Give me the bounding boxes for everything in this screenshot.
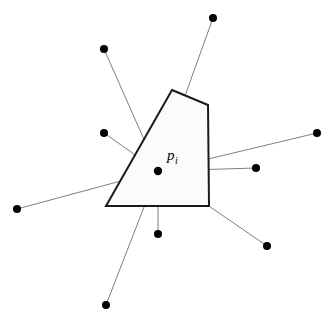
outer-point-n2	[100, 45, 108, 53]
polygon-cell	[106, 90, 209, 206]
outer-point-n9	[102, 301, 110, 309]
outer-point-n7	[154, 230, 162, 238]
outer-point-n3	[100, 129, 108, 137]
outer-point-n1	[209, 14, 217, 22]
outer-point-n8	[263, 242, 271, 250]
center-point-dot	[154, 167, 162, 175]
figure-canvas: pi	[0, 0, 332, 320]
center-label-subscript: i	[175, 155, 178, 166]
center-label-base: p	[166, 147, 175, 163]
diagram-svg: pi	[0, 0, 332, 320]
outer-point-n5	[252, 164, 260, 172]
outer-point-n4	[313, 129, 321, 137]
outer-point-n6	[13, 205, 21, 213]
